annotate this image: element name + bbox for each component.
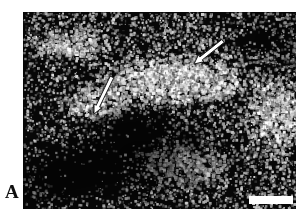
micrograph-panel (23, 12, 296, 209)
panel-label: A (5, 181, 19, 202)
figure-root: A (0, 0, 307, 222)
micrograph-image (23, 12, 296, 209)
